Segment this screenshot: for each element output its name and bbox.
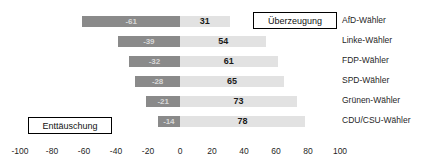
plot-area: -61 31 AfD-Wähler -39 54 Linke-Wähler -3… — [0, 0, 423, 140]
category-label: SPD-Wähler — [342, 74, 389, 87]
negative-bar-value: -61 — [82, 16, 180, 27]
positive-bar-value: 54 — [210, 35, 236, 48]
bar-row: -32 61 FDP-Wähler — [0, 52, 423, 72]
category-label: FDP-Wähler — [342, 54, 389, 67]
negative-bar-value: -39 — [118, 36, 180, 47]
category-label: CDU/CSU-Wähler — [342, 114, 410, 127]
x-tick-label: -40 — [101, 146, 131, 156]
x-tick-label: 60 — [261, 146, 291, 156]
x-tick-label: 20 — [197, 146, 227, 156]
diverging-bar-chart: -61 31 AfD-Wähler -39 54 Linke-Wähler -3… — [0, 0, 423, 165]
negative-bar-value: -32 — [129, 56, 180, 67]
x-tick-label: 100 — [325, 146, 355, 156]
category-label: Grünen-Wähler — [342, 94, 400, 107]
category-label: Linke-Wähler — [342, 34, 392, 47]
annotation-enttaeuschung: Enttäuschung — [28, 117, 112, 134]
x-axis: -100-80-60-40-20020406080100 — [0, 140, 423, 165]
annotation-ueberzeugung: Überzeugung — [253, 12, 337, 29]
x-tick-label: 0 — [165, 146, 195, 156]
x-tick-label: -20 — [133, 146, 163, 156]
x-tick-label: -80 — [37, 146, 67, 156]
negative-bar-value: -21 — [146, 96, 180, 107]
negative-bar-value: -14 — [158, 116, 180, 127]
positive-bar-value: 73 — [225, 95, 251, 108]
x-tick-label: 80 — [293, 146, 323, 156]
positive-bar-value: 31 — [192, 15, 218, 28]
positive-bar-value: 65 — [219, 75, 245, 88]
x-tick-label: -100 — [5, 146, 35, 156]
positive-bar-value: 78 — [229, 115, 255, 128]
negative-bar-value: -28 — [135, 76, 180, 87]
bar-row: -39 54 Linke-Wähler — [0, 32, 423, 52]
bar-row: -21 73 Grünen-Wähler — [0, 92, 423, 112]
bar-row: -61 31 AfD-Wähler — [0, 12, 423, 32]
positive-bar-value: 61 — [216, 55, 242, 68]
bar-row: -28 65 SPD-Wähler — [0, 72, 423, 92]
x-tick-label: 40 — [229, 146, 259, 156]
x-tick-label: -60 — [69, 146, 99, 156]
category-label: AfD-Wähler — [342, 14, 386, 27]
